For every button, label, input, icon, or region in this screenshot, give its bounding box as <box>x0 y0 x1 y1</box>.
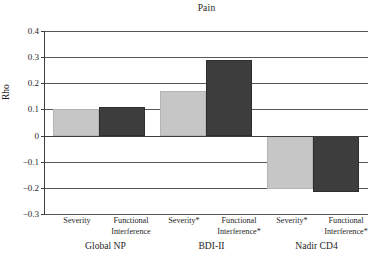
bar-0 <box>53 109 99 135</box>
ytick-label-0.3: 0.3 <box>28 52 39 62</box>
ytick-mark-0.4 <box>41 31 45 32</box>
ytick-mark-0.2 <box>41 83 45 84</box>
y-axis-label: Rho <box>1 84 11 100</box>
ytick-mark--0.1 <box>41 162 45 163</box>
chart-title: Pain <box>45 3 368 13</box>
plot-area: 0.4 0.3 0.2 0.1 0 −0.1 −0. <box>45 31 368 214</box>
gridline-0.4 <box>45 31 368 32</box>
group-label-global-np: Global NP <box>53 240 158 251</box>
x-tick-label-5: Functional Interference* <box>313 216 379 237</box>
gridline-0.3 <box>45 57 368 58</box>
bar-3 <box>206 60 252 136</box>
x-tick-label-5-line2: Interference* <box>313 227 379 238</box>
ytick-label-0.1: 0.1 <box>28 104 39 114</box>
gridline-zero <box>45 136 368 137</box>
chart-figure: Pain Rho 0.4 0.3 0.2 0.1 0 <box>0 0 383 266</box>
ytick-mark--0.3 <box>41 214 45 215</box>
bar-5 <box>313 136 359 192</box>
bar-1 <box>99 107 145 135</box>
ytick-label--0.3: −0.3 <box>23 209 39 219</box>
group-label-nadir-cd4: Nadir CD4 <box>264 240 369 251</box>
ytick-mark-0.1 <box>41 109 45 110</box>
ytick-mark--0.2 <box>41 188 45 189</box>
ytick-label--0.2: −0.2 <box>23 183 39 193</box>
group-label-bdi-ii: BDI-II <box>159 240 264 251</box>
ytick-label-0.4: 0.4 <box>28 26 39 36</box>
ytick-mark-0.3 <box>41 57 45 58</box>
ytick-label--0.1: −0.1 <box>23 157 39 167</box>
ytick-label-0.2: 0.2 <box>28 78 39 88</box>
x-tick-label-1-line2: Interference <box>99 227 163 238</box>
x-tick-label-5-line1: Functional <box>313 216 379 227</box>
bar-4 <box>267 136 313 190</box>
x-tick-label-3-line2: Interference* <box>206 227 272 238</box>
gridline--0.3 <box>45 214 368 215</box>
bar-2 <box>160 91 206 135</box>
x-axis-group-labels: Global NP BDI-II Nadir CD4 <box>45 240 368 258</box>
ytick-label-0: 0 <box>35 131 40 141</box>
